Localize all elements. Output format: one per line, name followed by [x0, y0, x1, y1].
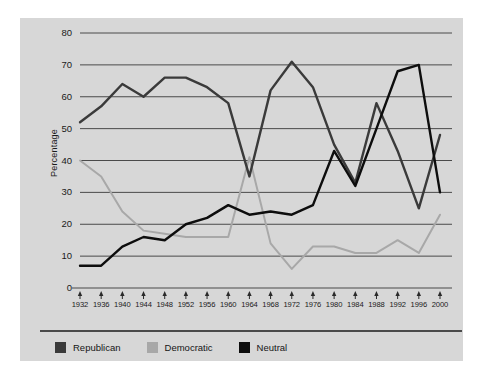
legend-swatch-icon	[147, 342, 158, 353]
legend-separator	[40, 330, 462, 332]
x-tick-marks	[78, 291, 442, 299]
legend-label: Democratic	[165, 342, 213, 353]
chart-legend: RepublicanDemocraticNeutral	[55, 342, 313, 353]
series-line-neutral	[80, 65, 440, 266]
legend-swatch-icon	[55, 342, 66, 353]
chart-figure: Percentage 01020304050607080 19321936194…	[0, 0, 480, 376]
series-line-group	[80, 62, 440, 269]
legend-label: Republican	[73, 342, 121, 353]
legend-item-republican: Republican	[55, 342, 121, 353]
y-tick-label: 40	[46, 155, 72, 166]
y-tick-label: 0	[46, 282, 72, 293]
legend-item-neutral: Neutral	[239, 342, 288, 353]
y-tick-label: 60	[46, 91, 72, 102]
x-tick-label: 2000	[423, 300, 457, 309]
legend-item-democratic: Democratic	[147, 342, 213, 353]
series-line-republican	[80, 62, 440, 209]
y-tick-label: 10	[46, 250, 72, 261]
y-tick-label: 70	[46, 59, 72, 70]
y-tick-label: 80	[46, 27, 72, 38]
legend-swatch-icon	[239, 342, 250, 353]
y-tick-label: 30	[46, 186, 72, 197]
y-tick-label: 50	[46, 123, 72, 134]
y-tick-label: 20	[46, 218, 72, 229]
line-chart-plot	[0, 0, 480, 376]
legend-label: Neutral	[257, 342, 288, 353]
